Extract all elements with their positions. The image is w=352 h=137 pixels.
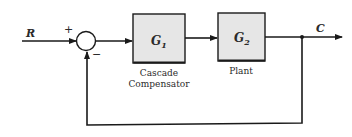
block-g2: G2 xyxy=(218,13,265,61)
block-g1-caption-line1: Cascade xyxy=(140,68,178,78)
input-label-r: R xyxy=(25,27,35,40)
block-g2-caption: Plant xyxy=(229,66,253,76)
block-diagram: R + − G1 Cascade Compensator G2 Plant C xyxy=(0,0,352,137)
diagram-canvas: R + − G1 Cascade Compensator G2 Plant C xyxy=(0,0,352,137)
block-g1: G1 xyxy=(133,14,185,63)
output-label-c: C xyxy=(316,22,325,35)
feedback-path xyxy=(87,37,302,125)
block-g1-caption-line2: Compensator xyxy=(128,79,190,89)
minus-sign: − xyxy=(92,48,101,61)
plus-sign: + xyxy=(64,23,73,36)
